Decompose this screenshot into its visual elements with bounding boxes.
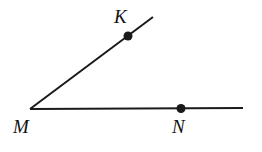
ray-mn	[30, 108, 243, 109]
angle-diagram: K M N	[0, 0, 262, 152]
point-n	[177, 104, 186, 113]
label-m: M	[12, 116, 30, 137]
label-n: N	[171, 116, 186, 137]
ray-mk	[30, 17, 153, 109]
point-k	[124, 32, 133, 41]
label-k: K	[113, 6, 128, 27]
